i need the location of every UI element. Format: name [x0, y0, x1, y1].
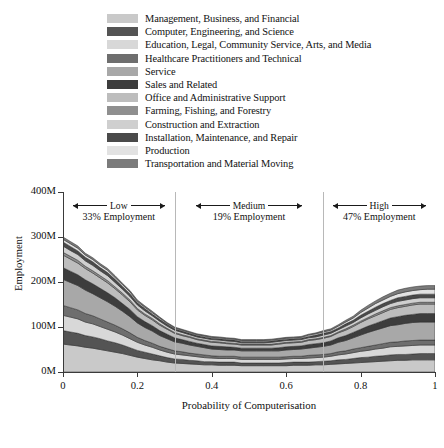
annotation-arrows: High	[319, 200, 439, 211]
arrow-left-icon	[196, 202, 230, 209]
arrow-right-icon	[131, 202, 165, 209]
y-tick-label: 100M	[4, 321, 56, 331]
y-tick-label: 0M	[4, 366, 56, 376]
annotation-medium-risk: Medium 19% Employment	[189, 200, 309, 222]
y-axis-title: Employment	[13, 214, 24, 314]
x-tick-label: 0.6	[266, 380, 306, 391]
annotation-name: Medium	[233, 200, 266, 211]
legend-label-2: Education, Legal, Community Service, Art…	[145, 39, 371, 50]
legend-swatch-1	[107, 27, 138, 36]
arrow-left-icon	[333, 202, 367, 209]
legend-label-11: Transportation and Material Moving	[145, 158, 293, 169]
x-tick-label: 0.8	[341, 380, 381, 391]
annotation-employment: 33% Employment	[59, 211, 179, 222]
legend-item: Computer, Engineering, and Science	[107, 25, 437, 38]
legend-label-1: Computer, Engineering, and Science	[145, 26, 294, 37]
legend-item: Education, Legal, Community Service, Art…	[107, 38, 437, 51]
legend-swatch-11	[107, 159, 138, 168]
x-tick	[137, 372, 138, 377]
x-axis-line	[63, 372, 435, 373]
legend-swatch-8	[107, 120, 138, 129]
legend: Management, Business, and Financial Comp…	[107, 12, 437, 170]
legend-label-3: Healthcare Practitioners and Technical	[145, 53, 302, 64]
legend-item: Sales and Related	[107, 78, 437, 91]
legend-item: Transportation and Material Moving	[107, 157, 437, 170]
legend-swatch-10	[107, 146, 138, 155]
legend-item: Service	[107, 65, 437, 78]
y-tick	[58, 192, 63, 193]
x-tick	[212, 372, 213, 377]
legend-label-5: Sales and Related	[145, 79, 217, 90]
x-tick	[435, 372, 436, 377]
x-tick-label: 1	[415, 380, 444, 391]
x-tick-label: 0.4	[192, 380, 232, 391]
y-tick	[58, 327, 63, 328]
y-tick	[58, 237, 63, 238]
annotation-employment: 47% Employment	[319, 211, 439, 222]
legend-swatch-0	[107, 14, 138, 23]
legend-label-6: Office and Administrative Support	[145, 92, 286, 103]
legend-swatch-3	[107, 54, 138, 63]
annotation-arrows: Low	[59, 200, 179, 211]
legend-item: Healthcare Practitioners and Technical	[107, 52, 437, 65]
legend-item: Farming, Fishing, and Forestry	[107, 104, 437, 117]
x-axis-title: Probability of Computerisation	[63, 399, 435, 411]
annotation-name: Low	[110, 200, 128, 211]
x-tick	[361, 372, 362, 377]
legend-item: Production	[107, 144, 437, 157]
legend-item: Installation, Maintenance, and Repair	[107, 131, 437, 144]
x-tick-label: 0.2	[117, 380, 157, 391]
arrow-left-icon	[73, 202, 107, 209]
legend-item: Management, Business, and Financial	[107, 12, 437, 25]
legend-item: Office and Administrative Support	[107, 91, 437, 104]
legend-swatch-7	[107, 106, 138, 115]
legend-swatch-9	[107, 133, 138, 142]
annotation-employment: 19% Employment	[189, 211, 309, 222]
annotation-low-risk: Low 33% Employment	[59, 200, 179, 222]
legend-swatch-6	[107, 93, 138, 102]
legend-label-0: Management, Business, and Financial	[145, 13, 299, 24]
annotation-high-risk: High 47% Employment	[319, 200, 439, 222]
annotation-arrows: Medium	[189, 200, 309, 211]
legend-label-10: Production	[145, 145, 190, 156]
arrow-right-icon	[268, 202, 302, 209]
x-tick	[286, 372, 287, 377]
legend-label-7: Farming, Fishing, and Forestry	[145, 105, 271, 116]
legend-label-9: Installation, Maintenance, and Repair	[145, 132, 297, 143]
employment-computerisation-chart: 0M100M200M300M400M 00.20.40.60.81 Employ…	[0, 178, 444, 448]
y-tick	[58, 282, 63, 283]
y-tick-label: 400M	[4, 186, 56, 196]
legend-item: Construction and Extraction	[107, 118, 437, 131]
x-tick-label: 0	[43, 380, 83, 391]
legend-label-8: Construction and Extraction	[145, 119, 259, 130]
legend-label-4: Service	[145, 66, 175, 77]
arrow-right-icon	[392, 202, 426, 209]
annotation-name: High	[370, 200, 389, 211]
legend-swatch-4	[107, 67, 138, 76]
legend-swatch-2	[107, 40, 138, 49]
x-tick	[63, 372, 64, 377]
legend-swatch-5	[107, 80, 138, 89]
